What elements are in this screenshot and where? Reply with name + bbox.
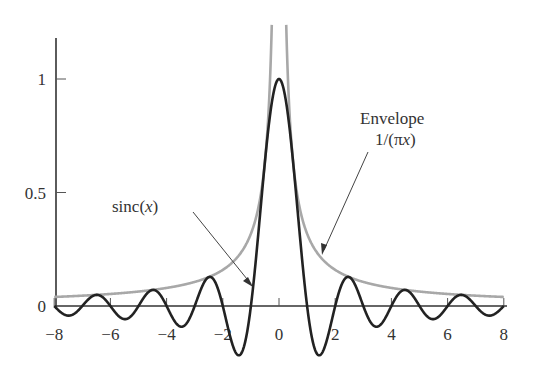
envelope-arrow <box>324 152 368 250</box>
envelope-annotation: Envelope 1/(πx) <box>321 109 424 255</box>
x-ticks: −8−6−4−202468 <box>45 298 508 344</box>
axes: −8−6−4−202468 00.51 <box>25 38 508 344</box>
sinc-curve <box>54 79 504 355</box>
sinc-label: sinc(x) <box>112 197 158 216</box>
envelope-label-line2: 1/(πx) <box>375 130 416 149</box>
envelope-curve-right <box>286 25 504 297</box>
x-tick-label: 6 <box>443 325 452 344</box>
envelope-label-line1: Envelope <box>360 109 424 128</box>
x-tick-label: −4 <box>158 325 177 344</box>
y-tick-label: 0.5 <box>25 184 46 203</box>
envelope-arrowhead-icon <box>321 243 327 255</box>
x-tick-label: 0 <box>275 325 284 344</box>
y-tick-label: 0 <box>38 297 47 316</box>
y-tick-label: 1 <box>38 70 47 89</box>
sinc-arrow <box>193 212 251 284</box>
x-tick-label: 4 <box>387 325 396 344</box>
x-tick-label: −6 <box>101 325 119 344</box>
x-tick-label: 8 <box>500 325 509 344</box>
x-tick-label: −8 <box>45 325 63 344</box>
envelope-curve-left <box>54 25 272 297</box>
y-ticks: 00.51 <box>25 70 66 316</box>
sinc-envelope-chart: −8−6−4−202468 00.51 sinc(x) Envelope 1/(… <box>0 0 536 378</box>
sinc-annotation: sinc(x) <box>112 197 253 287</box>
sinc-arrowhead-icon <box>243 277 253 287</box>
x-tick-label: 2 <box>331 325 340 344</box>
